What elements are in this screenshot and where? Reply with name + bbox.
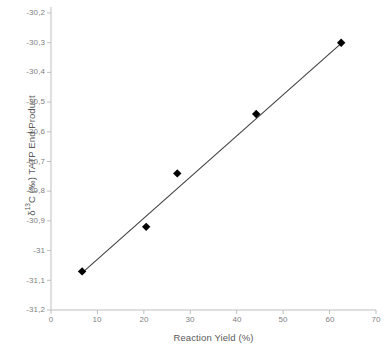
chart-container: δ13C (‰) TATP End Product -30,2 -30,3 -3… bbox=[0, 0, 391, 354]
data-points bbox=[78, 39, 345, 276]
plot-area bbox=[0, 0, 391, 354]
trendline bbox=[82, 43, 341, 273]
data-point-marker bbox=[252, 110, 260, 118]
data-point-marker bbox=[78, 267, 86, 275]
data-point-marker bbox=[142, 223, 150, 231]
trendline-segment bbox=[82, 43, 341, 273]
axis-ticks bbox=[47, 13, 376, 314]
axes bbox=[51, 7, 376, 310]
data-point-marker bbox=[173, 169, 181, 177]
